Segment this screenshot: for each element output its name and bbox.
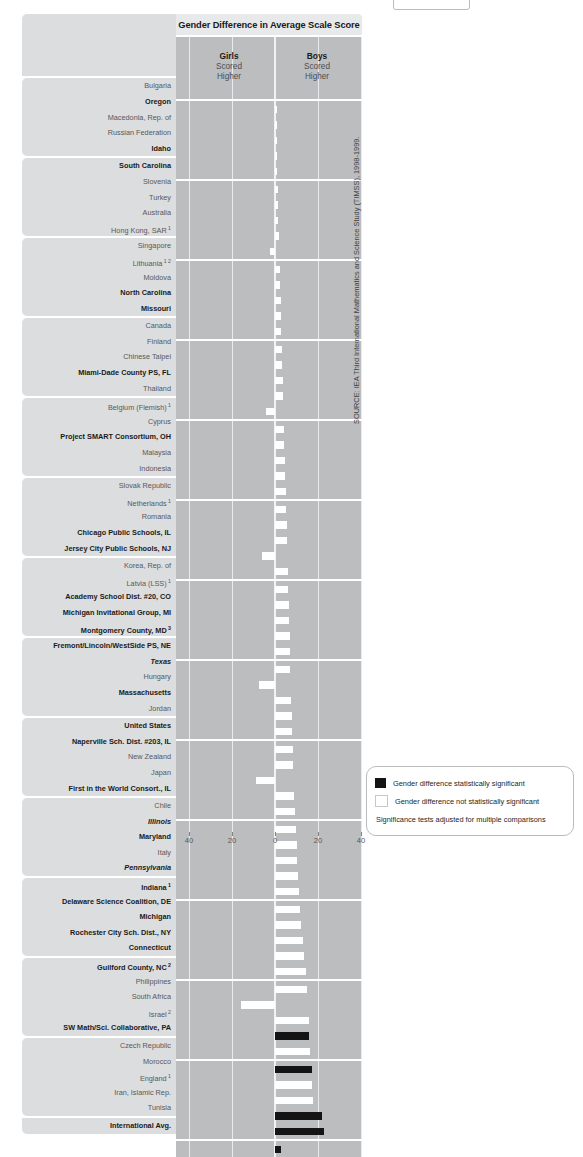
table-row: [176, 981, 362, 997]
row-label: Academy School Dist. #20, CO: [22, 589, 176, 605]
legend-note: Significance tests adjusted for multiple…: [375, 815, 565, 824]
row-label: Miami-Dade County PS, FL: [22, 365, 176, 381]
boys-header-title: Boys: [272, 51, 362, 62]
bar: [275, 888, 299, 895]
bar: [275, 1146, 281, 1153]
bar: [275, 986, 307, 993]
row-label: Connecticut: [22, 940, 176, 956]
bar: [275, 617, 289, 624]
bar: [270, 248, 275, 255]
row-label: Netherlands 1: [22, 494, 176, 510]
boys-header: BoysScoredHigher: [272, 51, 362, 83]
legend-label-not-significant: Gender difference not statistically sign…: [395, 797, 539, 806]
bar: [275, 168, 277, 175]
row-label-footnote: 1: [167, 1073, 171, 1079]
table-row: [176, 901, 362, 917]
label-group: Korea, Rep. ofLatvia (LSS) 1Academy Scho…: [22, 558, 176, 636]
table-row: [176, 468, 362, 484]
row-label: Illinois: [22, 814, 176, 830]
bar: [275, 361, 282, 368]
table-row: [176, 917, 362, 933]
chart-frame: Gender Difference in Average Scale Score…: [22, 14, 362, 834]
bar: [275, 1048, 310, 1055]
table-row: [176, 181, 362, 197]
row-label-footnote: 1: [167, 578, 171, 584]
table-row: [176, 1028, 362, 1044]
bar: [275, 1097, 313, 1104]
bar: [275, 106, 277, 113]
row-label: Oregon: [22, 94, 176, 110]
bar: [275, 586, 288, 593]
table-row: [176, 741, 362, 757]
table-row: [176, 293, 362, 309]
boys-header-line3: Higher: [272, 72, 362, 83]
table-row: [176, 597, 362, 613]
table-row: [176, 501, 362, 517]
row-label: Belgium (Flemish) 1: [22, 398, 176, 414]
table-row: [176, 933, 362, 949]
bar: [275, 346, 282, 353]
bar: [275, 152, 277, 159]
label-group: CanadaFinlandChinese TaipeiMiami-Dade Co…: [22, 318, 176, 396]
label-group: International Avg.: [22, 1118, 176, 1134]
plot-group: [176, 741, 362, 819]
row-label: Bulgaria: [22, 78, 176, 94]
row-label: Rochester City Sch. Dist., NY: [22, 925, 176, 941]
label-group: Czech RepublicMoroccoEngland 1Iran, Isla…: [22, 1038, 176, 1116]
plot-group: [176, 501, 362, 579]
bar: [275, 488, 286, 495]
bar: [275, 506, 286, 513]
table-row: [176, 517, 362, 533]
bar: [241, 1001, 275, 1008]
bar: [275, 521, 287, 528]
row-label: Czech Republic: [22, 1038, 176, 1054]
table-row: [176, 868, 362, 884]
axis-tick-label: 20: [314, 836, 322, 845]
bar: [275, 808, 295, 815]
bar: [275, 857, 297, 864]
row-label: Massachusetts: [22, 685, 176, 701]
table-row: [176, 853, 362, 869]
table-row: [176, 133, 362, 149]
table-row: [176, 453, 362, 469]
row-label: Japan: [22, 765, 176, 781]
table-row: [176, 548, 362, 564]
row-label: Philippines: [22, 974, 176, 990]
table-row: [176, 277, 362, 293]
bar: [275, 601, 289, 608]
table-row: [176, 117, 362, 133]
plot-group: [176, 1061, 362, 1139]
row-label-footnote: 1: [167, 498, 171, 504]
row-label: Macedonia, Rep. of: [22, 110, 176, 126]
boys-header-line2: Scored: [272, 62, 362, 73]
bar: [256, 777, 275, 784]
table-row: [176, 773, 362, 789]
bar: [275, 457, 285, 464]
bar: [275, 872, 298, 879]
x-axis: 402002040: [176, 832, 362, 852]
table-row: [176, 564, 362, 580]
row-label-column: BulgariaOregonMacedonia, Rep. ofRussian …: [22, 14, 176, 1136]
table-row: [176, 421, 362, 437]
legend-label-significant: Gender difference statistically signific…: [393, 779, 525, 788]
plot-group: [176, 981, 362, 1059]
row-label-footnote: 1: [167, 882, 171, 888]
bar: [275, 312, 281, 319]
row-label: Pennsylvania: [22, 860, 176, 876]
table-row: [176, 484, 362, 500]
label-group: BulgariaOregonMacedonia, Rep. ofRussian …: [22, 78, 176, 156]
plot-header-band: GirlsScoredHigherBoysScoredHigher: [176, 37, 362, 99]
row-label: Slovenia: [22, 174, 176, 190]
table-row: [176, 437, 362, 453]
row-label: South Africa: [22, 989, 176, 1005]
bar: [275, 1128, 324, 1135]
bar: [275, 568, 288, 575]
row-label: Hong Kong, SAR 1: [22, 221, 176, 237]
row-label: Italy: [22, 845, 176, 861]
table-row: [176, 1108, 362, 1124]
row-label-footnote: 2: [167, 1009, 171, 1015]
table-row: [176, 661, 362, 677]
label-group: Guilford County, NC 2PhilippinesSouth Af…: [22, 958, 176, 1036]
axis-tick-label: 20: [228, 836, 236, 845]
table-row: [176, 613, 362, 629]
